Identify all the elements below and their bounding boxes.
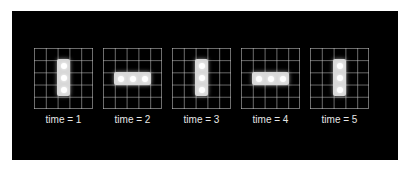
frame-time-1: time = 1 [34, 48, 93, 109]
grid-5x5 [172, 48, 231, 109]
frame-label: time = 1 [24, 114, 103, 125]
grid-5x5 [241, 48, 300, 109]
live-cell [61, 87, 67, 93]
frame-time-3: time = 3 [172, 48, 231, 109]
live-cell [337, 87, 343, 93]
frame-label: time = 5 [300, 114, 379, 125]
live-cell [280, 76, 286, 82]
live-cell [256, 76, 262, 82]
frame-label: time = 4 [231, 114, 310, 125]
live-cell [199, 75, 205, 81]
live-cell [199, 87, 205, 93]
live-cell [118, 76, 124, 82]
figure-panel: time = 1 time = 2 time = 3 time = 4 [12, 11, 398, 160]
frame-time-5: time = 5 [310, 48, 369, 109]
live-cell [61, 75, 67, 81]
frame-time-2: time = 2 [103, 48, 162, 109]
grid-5x5 [103, 48, 162, 109]
live-cell [199, 63, 205, 69]
frame-time-4: time = 4 [241, 48, 300, 109]
live-cell [337, 75, 343, 81]
live-cell [142, 76, 148, 82]
grid-5x5 [34, 48, 93, 109]
frame-label: time = 3 [162, 114, 241, 125]
live-cell [61, 63, 67, 69]
frame-label: time = 2 [93, 114, 172, 125]
live-cell [337, 63, 343, 69]
live-cell [268, 76, 274, 82]
live-cell [130, 76, 136, 82]
grid-5x5 [310, 48, 369, 109]
